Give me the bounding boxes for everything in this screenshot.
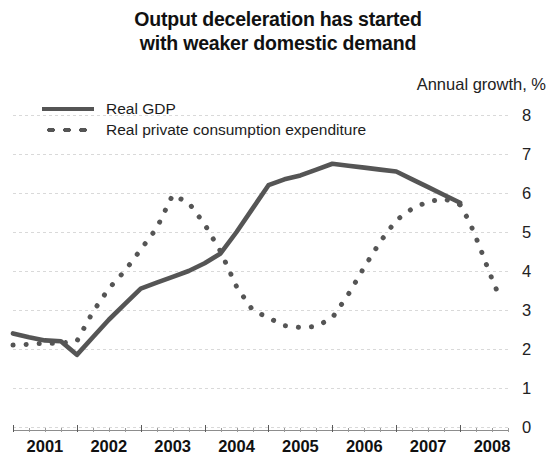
x-axis-minor-tick (29, 428, 30, 432)
x-axis-minor-tick (428, 428, 429, 432)
x-axis-minor-tick (284, 428, 285, 432)
y-axis-tick-label: 0 (522, 418, 548, 437)
series-line-consumption (13, 195, 460, 345)
x-axis-minor-tick (61, 428, 62, 432)
x-axis-minor-tick (125, 428, 126, 432)
solid-line-key (40, 100, 98, 118)
x-axis-minor-tick (476, 428, 477, 432)
x-axis-minor-tick (109, 428, 110, 432)
x-axis-minor-tick (508, 428, 509, 432)
legend-label-real-gdp: Real GDP (98, 100, 176, 118)
gridlines (13, 115, 508, 427)
series-line-consumption (460, 205, 498, 295)
x-axis-minor-tick (300, 428, 301, 432)
x-axis-tick (332, 425, 333, 432)
x-axis-minor-tick (316, 428, 317, 432)
y-axis-tick-label: 7 (522, 145, 548, 164)
x-axis-tick (77, 425, 78, 432)
x-axis-tick-label: 2001 (27, 437, 64, 456)
chart-canvas (13, 115, 508, 427)
x-axis-tick (396, 425, 397, 432)
y-axis-tick-label: 1 (522, 379, 548, 398)
y-axis-tick-label: 2 (522, 340, 548, 359)
y-axis-unit-label: Annual growth, % (417, 75, 546, 94)
x-axis-tick-label: 2002 (90, 437, 127, 456)
x-axis-minor-tick (364, 428, 365, 432)
legend-label-consumption: Real private consumption expenditure (98, 121, 366, 139)
x-axis-tick-label: 2008 (474, 437, 511, 456)
x-axis-minor-tick (348, 428, 349, 432)
x-axis-minor-tick (189, 428, 190, 432)
x-axis-tick (141, 425, 142, 432)
x-axis-tick-label: 2007 (410, 437, 447, 456)
y-axis-tick-label: 6 (522, 184, 548, 203)
legend-item-consumption: Real private consumption expenditure (40, 119, 400, 140)
x-axis-tick (13, 425, 14, 432)
x-axis-tick (460, 425, 461, 432)
chart-legend: Real GDP Real private consumption expend… (40, 98, 400, 140)
series-line-real-gdp (13, 164, 460, 355)
y-axis-tick-label: 4 (522, 262, 548, 281)
x-axis-minor-tick (237, 428, 238, 432)
series-layer (13, 164, 498, 355)
y-axis-tick-label: 3 (522, 301, 548, 320)
x-axis-minor-tick (93, 428, 94, 432)
x-axis-minor-tick (157, 428, 158, 432)
y-axis-tick-label: 8 (522, 106, 548, 125)
x-axis-tick (268, 425, 269, 432)
x-axis-line (13, 430, 508, 431)
x-axis-tick-label: 2005 (282, 437, 319, 456)
x-axis-minor-tick (45, 428, 46, 432)
x-axis-minor-tick (221, 428, 222, 432)
legend-item-real-gdp: Real GDP (40, 98, 400, 119)
x-axis-tick-label: 2004 (218, 437, 255, 456)
x-axis-minor-tick (444, 428, 445, 432)
dotted-line-key (40, 121, 98, 139)
x-axis-minor-tick (173, 428, 174, 432)
plot-area (13, 115, 508, 427)
x-axis-minor-tick (412, 428, 413, 432)
x-axis-tick (205, 425, 206, 432)
x-axis-tick-label: 2003 (154, 437, 191, 456)
x-axis-minor-tick (253, 428, 254, 432)
x-axis-minor-tick (380, 428, 381, 432)
x-axis-tick-label: 2006 (346, 437, 383, 456)
x-axis-minor-tick (492, 428, 493, 432)
y-axis-tick-label: 5 (522, 223, 548, 242)
page-title: Output deceleration has started with wea… (0, 8, 556, 56)
